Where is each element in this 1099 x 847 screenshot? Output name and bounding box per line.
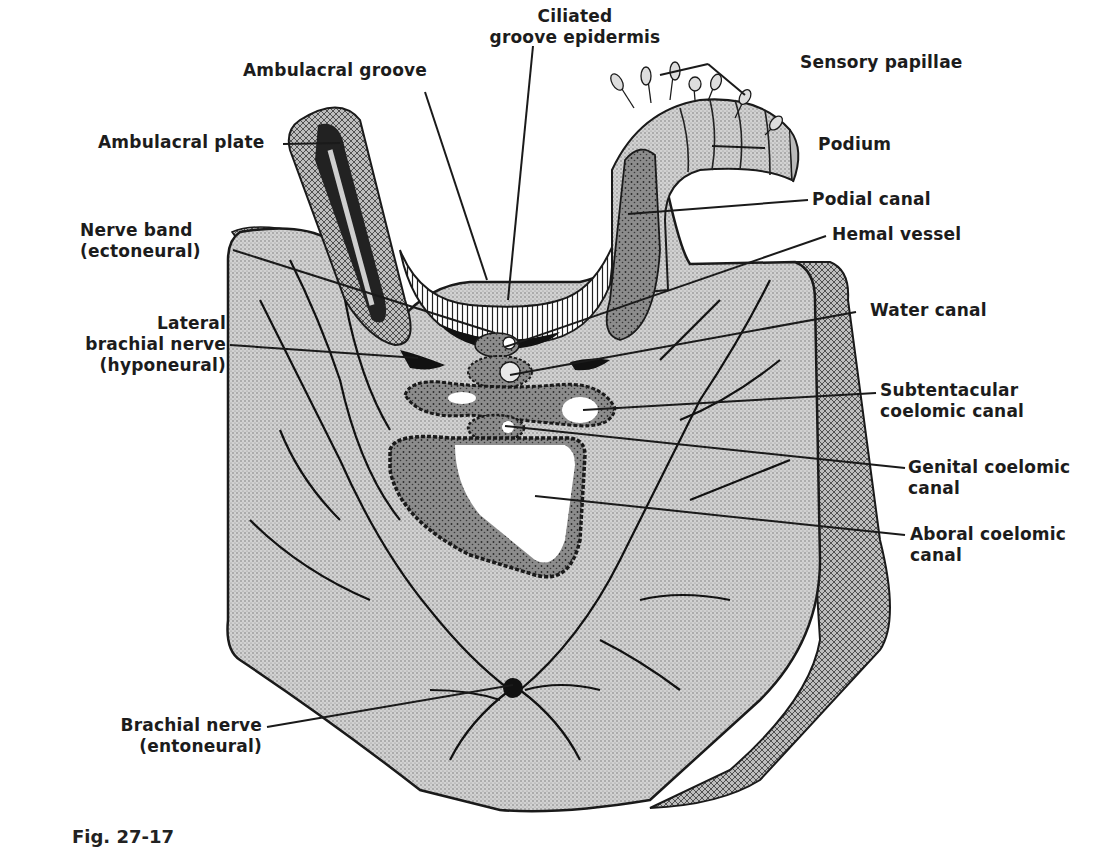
label-hemal-vessel: Hemal vessel <box>832 224 961 245</box>
label-lateral-brachial-nerve: Lateral brachial nerve (hyponeural) <box>40 313 226 376</box>
label-water-canal: Water canal <box>870 300 987 321</box>
label-brachial-nerve: Brachial nerve (entoneural) <box>110 715 262 757</box>
label-line: Water canal <box>870 300 987 321</box>
label-line: Sensory papillae <box>800 52 963 73</box>
label-genital-coelomic-canal: Genital coelomic canal <box>908 457 1070 499</box>
figure-caption: Fig. 27-17 <box>72 826 174 847</box>
label-line: Aboral coelomic <box>910 524 1066 545</box>
label-line: Brachial nerve <box>110 715 262 736</box>
label-line: canal <box>910 545 1066 566</box>
label-line: Podium <box>818 134 891 155</box>
label-podium: Podium <box>818 134 891 155</box>
label-line: Hemal vessel <box>832 224 961 245</box>
label-line: brachial nerve <box>40 334 226 355</box>
label-line: (ectoneural) <box>80 241 201 262</box>
label-line: (hyponeural) <box>40 355 226 376</box>
label-ambulacral-groove: Ambulacral groove <box>243 60 427 81</box>
label-nerve-band: Nerve band (ectoneural) <box>80 220 201 262</box>
label-line: canal <box>908 478 1070 499</box>
label-line: Subtentacular <box>880 380 1024 401</box>
label-line: Genital coelomic <box>908 457 1070 478</box>
label-line: coelomic canal <box>880 401 1024 422</box>
label-line: Lateral <box>40 313 226 334</box>
label-aboral-coelomic-canal: Aboral coelomic canal <box>910 524 1066 566</box>
label-line: Ambulacral groove <box>243 60 427 81</box>
label-line: (entoneural) <box>110 736 262 757</box>
label-line: Nerve band <box>80 220 201 241</box>
label-ciliated-groove-epidermis: Ciliated groove epidermis <box>480 6 670 48</box>
label-line: Ambulacral plate <box>98 132 264 153</box>
label-podial-canal: Podial canal <box>812 189 931 210</box>
label-ambulacral-plate: Ambulacral plate <box>98 132 264 153</box>
label-line: groove epidermis <box>480 27 670 48</box>
label-sensory-papillae: Sensory papillae <box>800 52 963 73</box>
label-subtentacular-coelomic-canal: Subtentacular coelomic canal <box>880 380 1024 422</box>
brachial-nerve-ganglion <box>503 678 523 698</box>
label-line: Ciliated <box>480 6 670 27</box>
label-line: Podial canal <box>812 189 931 210</box>
